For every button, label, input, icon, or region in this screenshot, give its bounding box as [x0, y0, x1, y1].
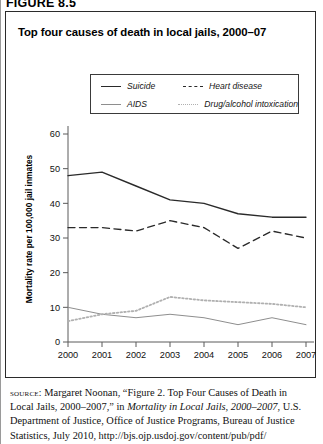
x-tick-label: 2005 [228, 350, 248, 360]
line-dashed-icon [183, 82, 203, 91]
source-note: source: Margaret Noonan, “Figure 2. Top … [10, 386, 310, 443]
y-tick-label: 60 [50, 129, 60, 139]
source-italic-title: Mortality in Local Jails, 2000–2007 [127, 401, 277, 412]
legend-item-heart-disease: Heart disease [183, 81, 262, 91]
chart-title: Top four causes of death in local jails,… [18, 26, 266, 38]
y-tick-label: 50 [50, 164, 60, 174]
line-chart-svg: 0102030405060200020012002200320042005200… [6, 116, 317, 377]
y-axis-label: Mortality rate per 100,000 jail inmates [24, 154, 34, 304]
x-tick-label: 2003 [160, 350, 180, 360]
legend-item-suicide: Suicide [101, 81, 183, 91]
figure-box: Top four causes of death in local jails,… [5, 11, 316, 378]
y-tick-label: 30 [50, 233, 60, 243]
series-line-aids [68, 307, 306, 324]
legend-label: Drug/alcohol intoxication [204, 99, 298, 109]
x-tick-label: 2004 [194, 350, 214, 360]
line-thin-icon [101, 100, 121, 109]
series-line-drug-alcohol-intoxication [68, 297, 306, 321]
line-dotted-icon [178, 100, 198, 109]
legend-item-drug-alcohol: Drug/alcohol intoxication [178, 99, 298, 109]
legend-item-aids: AIDS [101, 99, 178, 109]
x-tick-label: 2000 [58, 350, 78, 360]
chart-legend: Suicide Heart disease AIDS Drug/alcohol … [90, 74, 299, 114]
legend-label: AIDS [127, 99, 147, 109]
x-tick-label: 2007 [296, 350, 316, 360]
source-label: source: [10, 387, 42, 398]
legend-row: Suicide Heart disease [91, 77, 298, 95]
y-tick-label: 10 [50, 303, 60, 313]
legend-row: AIDS Drug/alcohol intoxication [91, 95, 298, 113]
x-tick-label: 2006 [262, 350, 282, 360]
legend-label: Heart disease [209, 81, 262, 91]
y-tick-label: 0 [55, 337, 60, 347]
x-tick-label: 2001 [92, 350, 112, 360]
figure-number: FIGURE 8.5 [6, 0, 76, 10]
legend-label: Suicide [127, 81, 155, 91]
figure-page: FIGURE 8.5 Top four causes of death in l… [0, 0, 323, 444]
x-tick-label: 2002 [126, 350, 146, 360]
series-line-suicide [68, 172, 306, 217]
y-tick-label: 20 [50, 268, 60, 278]
y-tick-label: 40 [50, 199, 60, 209]
series-line-heart-disease [68, 221, 306, 249]
page-left-rule [0, 0, 1, 444]
plot-area: Mortality rate per 100,000 jail inmates … [6, 116, 317, 377]
line-solid-icon [101, 82, 121, 91]
